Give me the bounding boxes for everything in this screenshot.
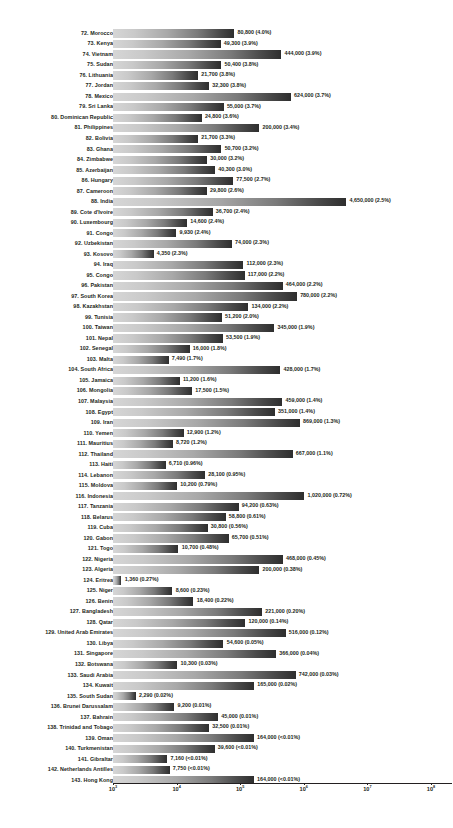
category-label: 116. Indonesia xyxy=(0,494,113,499)
category-label: 73. Kenya xyxy=(0,41,113,46)
bar-value-label: 221,000 (0.20%) xyxy=(265,609,305,614)
bar-track xyxy=(113,61,221,69)
category-label: 123. Algeria xyxy=(0,567,113,572)
axis-tick xyxy=(304,783,305,786)
bar xyxy=(113,356,169,364)
bar-value-label: 8,720 (1.2%) xyxy=(176,440,207,445)
bar-value-label: 624,000 (3.7%) xyxy=(294,93,331,98)
bar xyxy=(113,640,223,648)
bar xyxy=(113,734,254,742)
bar-value-label: 667,000 (1.1%) xyxy=(296,451,333,456)
axis-tick xyxy=(431,783,432,786)
bar-track xyxy=(113,661,177,669)
bar xyxy=(113,40,221,48)
axis-tick-label: 103 xyxy=(109,787,117,793)
bar-track xyxy=(113,766,170,774)
bar-track xyxy=(113,597,193,605)
category-label: 128. Qatar xyxy=(0,620,113,625)
bar-value-label: 32,500 (0.01%) xyxy=(212,724,249,729)
bar xyxy=(113,619,245,627)
bar xyxy=(113,135,198,143)
bar xyxy=(113,755,167,763)
bar-track xyxy=(113,334,223,342)
category-label: 93. Kosovo xyxy=(0,252,113,257)
bar-value-label: 51,200 (2.0%) xyxy=(225,314,259,319)
bar xyxy=(113,229,176,237)
bar xyxy=(113,776,254,784)
category-label: 94. Iraq xyxy=(0,262,113,267)
bar-track xyxy=(113,629,286,637)
bar xyxy=(113,724,209,732)
category-label: 132. Botswana xyxy=(0,662,113,667)
category-label: 125. Niger xyxy=(0,588,113,593)
bar xyxy=(113,187,207,195)
category-label: 137. Bahrain xyxy=(0,715,113,720)
bar-track xyxy=(113,671,296,679)
category-label: 122. Nigeria xyxy=(0,557,113,562)
bar xyxy=(113,503,239,511)
bar-track xyxy=(113,377,180,385)
bar-value-label: 77,500 (2.7%) xyxy=(236,177,270,182)
category-label: 133. Saudi Arabia xyxy=(0,673,113,678)
bar-track xyxy=(113,93,291,101)
bar-track xyxy=(113,261,243,269)
bar-value-label: 36,700 (2.4%) xyxy=(216,209,250,214)
category-label: 142. Netherlands Antilles xyxy=(0,767,113,772)
bar xyxy=(113,534,229,542)
category-label: 86. Hungary xyxy=(0,178,113,183)
category-label: 99. Tunisia xyxy=(0,315,113,320)
bar-track xyxy=(113,40,221,48)
bar xyxy=(113,208,213,216)
bar-track xyxy=(113,292,297,300)
bar-value-label: 94,200 (0.63%) xyxy=(242,503,279,508)
category-label: 109. Iran xyxy=(0,420,113,425)
bar xyxy=(113,713,218,721)
bar-track xyxy=(113,50,281,58)
category-label: 81. Philippines xyxy=(0,125,113,130)
bar xyxy=(113,271,245,279)
bar xyxy=(113,587,172,595)
axis-tick-label: 108 xyxy=(427,787,435,793)
bar-track xyxy=(113,482,177,490)
bar-track xyxy=(113,755,167,763)
bar-track xyxy=(113,387,192,395)
bar-value-label: 10,200 (0.79%) xyxy=(180,482,217,487)
bar-track xyxy=(113,408,275,416)
bar-value-label: 21,700 (3.8%) xyxy=(201,72,235,77)
bar-track xyxy=(113,682,254,690)
bar xyxy=(113,93,291,101)
bar-value-label: 468,000 (0.45%) xyxy=(286,556,326,561)
bar-value-label: 28,100 (0.95%) xyxy=(208,472,245,477)
bar-value-label: 50,700 (3.2%) xyxy=(225,146,259,151)
bar-value-label: 58,800 (0.61%) xyxy=(229,514,266,519)
bar-value-label: 9,200 (0.01%) xyxy=(177,703,211,708)
bar-value-label: 200,000 (0.38%) xyxy=(263,567,303,572)
bar-track xyxy=(113,703,174,711)
category-label: 135. South Sudan xyxy=(0,694,113,699)
bar-track xyxy=(113,187,207,195)
bar xyxy=(113,513,226,521)
bar-track xyxy=(113,450,293,458)
category-label: 127. Bangladesh xyxy=(0,609,113,614)
x-axis-line xyxy=(113,783,452,784)
category-label: 110. Yemen xyxy=(0,431,113,436)
category-label: 96. Pakistan xyxy=(0,283,113,288)
category-label: 107. Malaysia xyxy=(0,399,113,404)
bar-track xyxy=(113,650,276,658)
category-label: 101. Nepal xyxy=(0,336,113,341)
bar xyxy=(113,114,202,122)
bar-track xyxy=(113,555,283,563)
bar-value-label: 516,000 (0.12%) xyxy=(289,630,329,635)
category-label: 119. Cuba xyxy=(0,525,113,530)
bar-value-label: 7,490 (1.7%) xyxy=(172,356,203,361)
bar xyxy=(113,429,184,437)
bar-track xyxy=(113,145,221,153)
bar-value-label: 65,700 (0.51%) xyxy=(232,535,269,540)
bar xyxy=(113,524,208,532)
category-label: 129. United Arab Emirates xyxy=(0,630,113,635)
bar-track xyxy=(113,419,300,427)
bar-track xyxy=(113,503,239,511)
bar xyxy=(113,482,177,490)
bar-value-label: 55,000 (3.7%) xyxy=(227,104,261,109)
bar xyxy=(113,219,187,227)
